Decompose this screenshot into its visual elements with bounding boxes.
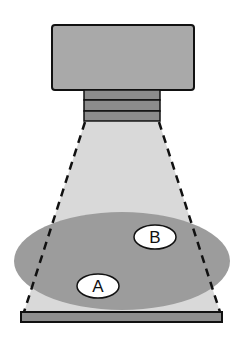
lens-stack: [84, 90, 160, 121]
diagram-canvas: B A: [0, 0, 252, 344]
target-region-ellipse: [14, 212, 230, 310]
lens-band-3: [84, 111, 160, 121]
point-b-marker: B: [134, 225, 176, 249]
lens-band-2: [84, 100, 160, 111]
lens-band-1: [84, 90, 160, 100]
camera-body: [52, 25, 194, 90]
base-surface-bar: [21, 312, 222, 322]
point-a-label: A: [92, 277, 104, 296]
point-b-label: B: [149, 228, 160, 247]
point-a-marker: A: [77, 274, 119, 298]
